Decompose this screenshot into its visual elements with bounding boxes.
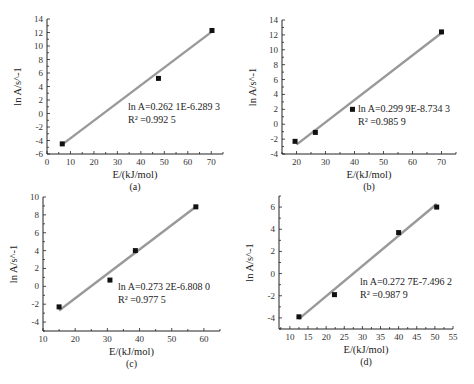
y-tick-label: -4	[32, 317, 40, 327]
data-point-marker	[332, 292, 337, 297]
y-tick-label: -4	[268, 313, 276, 323]
y-tick-label: 10	[269, 45, 279, 55]
y-tick-label: 14	[269, 15, 279, 25]
y-tick-label: -2	[36, 122, 44, 132]
y-tick-label: -4	[36, 136, 44, 146]
fit-line	[297, 33, 442, 145]
y-tick-label: 12	[269, 30, 278, 40]
y-axis-label: ln A/s^-1	[12, 67, 23, 105]
y-tick-label: 2	[39, 95, 44, 105]
y-tick-label: -4	[271, 149, 279, 159]
fit-equation: ln A=0.272 7E-7.496 2	[360, 276, 452, 287]
chart-panel-c: 102030405060-4-20246810ln A=0.273 2E-6.8…	[8, 192, 220, 370]
y-tick-label: 10	[34, 41, 44, 51]
x-tick-label: 10	[39, 334, 49, 344]
y-tick-label: 8	[39, 55, 44, 65]
data-point-marker	[133, 248, 138, 253]
y-axis-label: ln A/s^-1	[8, 245, 19, 283]
x-tick-label: 30	[321, 157, 331, 167]
x-tick-label: 40	[350, 157, 360, 167]
x-axis-label: E/(kJ/mol)	[109, 346, 154, 358]
panel-caption: (b)	[363, 181, 375, 193]
data-point-marker	[107, 278, 112, 283]
x-tick-label: 60	[183, 157, 193, 167]
y-tick-label: 12	[34, 28, 43, 38]
y-tick-label: -6	[36, 149, 44, 159]
x-tick-label: 70	[207, 157, 217, 167]
fit-equation: ln A=0.273 2E-6.808 0	[118, 281, 210, 292]
panel-caption: (a)	[129, 181, 140, 193]
y-tick-label: 0	[39, 109, 44, 119]
y-tick-label: 14	[34, 14, 44, 24]
x-tick-label: 20	[292, 157, 302, 167]
y-tick-label: 8	[274, 60, 279, 70]
x-axis-label: E/(kJ/mol)	[347, 169, 392, 181]
x-tick-label: 20	[89, 157, 99, 167]
chart-panel-b: 203040506070-4-202468101214ln A=0.299 9E…	[247, 15, 456, 193]
y-tick-label: 2	[35, 263, 40, 273]
y-tick-label: 10	[30, 192, 40, 202]
y-tick-label: 4	[271, 224, 276, 234]
r-squared: R² =0.985 9	[358, 116, 406, 127]
x-tick-label: 60	[199, 334, 209, 344]
data-point-marker	[209, 28, 214, 33]
x-tick-label: 55	[449, 332, 459, 342]
fit-line	[61, 32, 211, 145]
y-tick-label: -2	[271, 134, 279, 144]
x-tick-label: 20	[322, 332, 332, 342]
data-point-marker	[193, 204, 198, 209]
x-axis-label: E/(kJ/mol)	[344, 344, 389, 356]
data-point-marker	[293, 139, 298, 144]
x-tick-label: 30	[113, 157, 123, 167]
data-point-marker	[296, 314, 301, 319]
y-tick-label: -2	[268, 291, 276, 301]
chart-panel-a: 010203040506070-6-4-202468101214ln A=0.2…	[12, 14, 223, 193]
x-tick-label: 40	[136, 157, 146, 167]
r-squared: R² =0.987 9	[360, 289, 408, 300]
y-tick-label: 4	[39, 82, 44, 92]
x-tick-label: 10	[285, 332, 295, 342]
y-tick-label: 8	[35, 210, 40, 220]
x-tick-label: 40	[394, 332, 404, 342]
x-tick-label: 20	[71, 334, 81, 344]
x-tick-label: 50	[167, 334, 177, 344]
data-point-marker	[350, 107, 355, 112]
x-tick-label: 50	[430, 332, 440, 342]
x-tick-label: 50	[379, 157, 389, 167]
y-tick-label: 2	[274, 104, 279, 114]
data-point-marker	[57, 304, 62, 309]
x-tick-label: 70	[437, 157, 447, 167]
data-point-marker	[60, 141, 65, 146]
r-squared: R² =0.992 5	[128, 114, 176, 125]
x-tick-label: 30	[103, 334, 113, 344]
x-tick-label: 35	[376, 332, 386, 342]
x-tick-label: 0	[45, 157, 50, 167]
data-point-marker	[156, 76, 161, 81]
data-point-marker	[313, 130, 318, 135]
x-axis-label: E/(kJ/mol)	[113, 169, 158, 181]
y-tick-label: 2	[271, 246, 276, 256]
fit-equation: ln A=0.299 9E-8.734 3	[358, 103, 450, 114]
y-tick-label: 0	[271, 269, 276, 279]
y-tick-label: 6	[271, 202, 276, 212]
y-tick-label: 4	[35, 246, 40, 256]
y-axis-label: ln A/s^-1	[247, 68, 258, 106]
data-point-marker	[434, 205, 439, 210]
y-tick-label: 6	[39, 68, 44, 78]
x-tick-label: 25	[340, 332, 350, 342]
x-tick-label: 60	[408, 157, 418, 167]
y-tick-label: 6	[35, 228, 40, 238]
y-tick-label: -2	[32, 299, 40, 309]
y-tick-label: 0	[35, 281, 40, 291]
x-tick-label: 10	[66, 157, 76, 167]
panel-caption: (d)	[360, 356, 372, 368]
chart-panel-d: 10152025303540455055-4-20246ln A=0.272 7…	[244, 196, 458, 368]
x-tick-label: 15	[304, 332, 314, 342]
y-tick-label: 6	[274, 75, 279, 85]
y-tick-label: 4	[274, 89, 279, 99]
fit-line	[299, 204, 437, 319]
fit-equation: ln A=0.262 1E-6.289 3	[128, 101, 220, 112]
data-point-marker	[439, 29, 444, 34]
x-tick-label: 50	[160, 157, 170, 167]
y-tick-label: 0	[274, 119, 279, 129]
